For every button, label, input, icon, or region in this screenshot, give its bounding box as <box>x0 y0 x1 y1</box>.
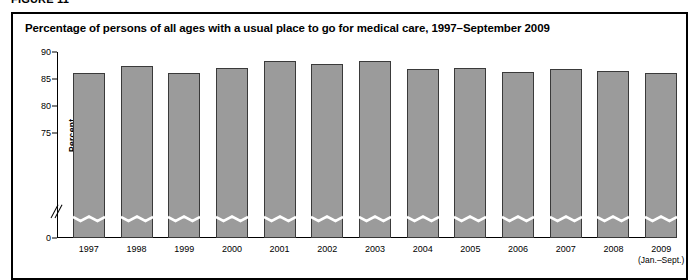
bar-1998 <box>121 66 153 238</box>
bar-break-mark <box>407 214 439 223</box>
x-tick-label-2009: 2009(Jan.–Sept.) <box>633 244 689 266</box>
bar-1999 <box>168 73 200 238</box>
bar-2000 <box>216 68 248 238</box>
bar-break-mark <box>597 214 629 223</box>
y-tick-mark <box>52 238 57 239</box>
chart-title: Percentage of persons of all ages with a… <box>25 22 550 34</box>
x-tick-year: 2004 <box>413 244 433 254</box>
bar-2005 <box>454 68 486 238</box>
x-tick-year: 2002 <box>317 244 337 254</box>
figure-number-caption: FIGURE 11 <box>11 0 69 5</box>
plot-area: Percent 908580750 <box>57 52 677 238</box>
x-tick-year: 2007 <box>556 244 576 254</box>
bar-2004 <box>407 69 439 238</box>
bar-break-mark <box>502 214 534 223</box>
bar-break-mark <box>359 214 391 223</box>
bar-break-mark <box>645 214 677 223</box>
bar-2002 <box>311 64 343 238</box>
x-tick-year: 1999 <box>174 244 194 254</box>
bar-break-mark <box>121 214 153 223</box>
y-tick-mark <box>52 106 57 107</box>
y-tick-mark <box>52 79 57 80</box>
x-tick-year: 2003 <box>365 244 385 254</box>
bar-break-mark <box>454 214 486 223</box>
x-tick-year: 2001 <box>270 244 290 254</box>
bar-2003 <box>359 61 391 238</box>
figure-box: Percentage of persons of all ages with a… <box>11 12 688 280</box>
bar-2001 <box>264 61 296 238</box>
x-tick-sublabel: (Jan.–Sept.) <box>633 255 689 266</box>
x-tick-year: 2009 <box>651 244 671 254</box>
y-tick-mark <box>52 133 57 134</box>
y-tick-mark <box>52 52 57 53</box>
bar-2008 <box>597 71 629 238</box>
bar-break-mark <box>168 214 200 223</box>
x-tick-year: 2000 <box>222 244 242 254</box>
bar-break-mark <box>264 214 296 223</box>
x-tick-year: 1997 <box>79 244 99 254</box>
x-tick-year: 2006 <box>508 244 528 254</box>
bar-2007 <box>550 69 582 238</box>
bar-1997 <box>73 73 105 238</box>
bar-break-mark <box>311 214 343 223</box>
y-axis-break-icon <box>52 204 64 220</box>
bar-2006 <box>502 72 534 238</box>
bar-break-mark <box>550 214 582 223</box>
x-tick-year: 2008 <box>603 244 623 254</box>
x-tick-year: 2005 <box>460 244 480 254</box>
x-tick-year: 1998 <box>127 244 147 254</box>
bar-2009 <box>645 73 677 238</box>
bar-break-mark <box>216 214 248 223</box>
bar-break-mark <box>73 214 105 223</box>
